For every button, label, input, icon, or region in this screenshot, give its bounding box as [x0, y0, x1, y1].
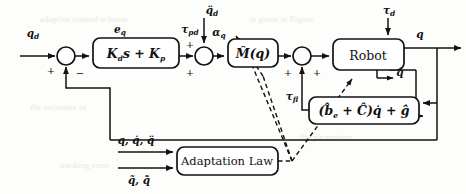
- error-sum-plus-sign: +: [47, 65, 55, 76]
- blocks: Kds + Kp M̂(q) Robot (b̂e + Ĉ)q̇ + ĝ A…: [93, 38, 419, 175]
- adaptation-input-labels: q, q̇, q̈ q̃, q̃̇: [118, 134, 155, 186]
- summing-junctions: + − + + + +: [47, 39, 321, 79]
- wire-friction-to-torque-sum: [302, 67, 309, 110]
- ghost-line-4: tracking error: [60, 160, 109, 170]
- accel-sum-plus-top: +: [186, 39, 194, 50]
- adaptation-law-label: Adaptation Law: [180, 154, 273, 168]
- error-summing-junction: [57, 47, 75, 65]
- acceleration-summing-junction: [195, 47, 213, 65]
- signal-label-q-output: q: [416, 28, 423, 40]
- signal-label-tau-pd: τpd: [181, 23, 198, 37]
- ghost-line-1: is given in Figure: [250, 14, 313, 24]
- adaptation-error-input-label: q̃, q̃̇: [128, 174, 150, 186]
- signal-label-qd: qd: [27, 27, 40, 41]
- signal-label-alpha-q: αq: [212, 26, 225, 40]
- adaptation-state-input-label: q, q̇, q̈: [118, 134, 155, 146]
- friction-gravity-label: (b̂e + Ĉ)q̇ + ĝ: [318, 102, 409, 120]
- torque-sum-plus-left: +: [284, 67, 292, 78]
- pd-controller-label: Kds + Kp: [106, 46, 166, 63]
- signal-label-eq: eq: [114, 23, 126, 37]
- torque-sum-plus-right: +: [313, 67, 321, 78]
- error-sum-minus-sign: −: [76, 68, 84, 79]
- signal-label-tau-fl: τfl: [286, 90, 299, 104]
- torque-summing-junction: [293, 47, 311, 65]
- signal-label-qdd-d: q̈d: [206, 4, 219, 18]
- ghost-line-2: the estimates of: [30, 102, 86, 112]
- signal-label-tau-d: τd: [383, 4, 395, 18]
- accel-sum-plus-bottom: +: [186, 67, 194, 78]
- diagram-canvas: adaptive control scheme is given in Figu…: [0, 0, 466, 194]
- robot-plant-label: Robot: [349, 48, 387, 63]
- inertia-estimate-label: M̂(q): [235, 46, 270, 61]
- signal-label-qdot-output: q̇: [396, 66, 403, 78]
- control-block-diagram: adaptive control scheme is given in Figu…: [0, 0, 466, 194]
